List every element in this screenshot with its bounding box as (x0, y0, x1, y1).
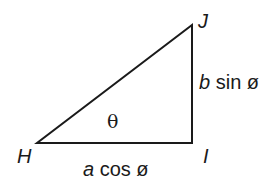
side-label-hi: a cos ø (83, 159, 149, 179)
side-label-ij: b sin ø (199, 72, 259, 92)
vertex-label-j: J (198, 11, 208, 31)
side-label-ij-var: b (199, 71, 210, 93)
side-label-ij-fn: sin ø (216, 71, 259, 93)
side-label-hi-var: a (83, 158, 94, 180)
angle-label-theta: θ (107, 112, 118, 131)
vertex-label-i: I (203, 146, 209, 166)
vertex-label-h: H (17, 146, 31, 166)
side-label-hi-fn: cos ø (100, 158, 149, 180)
